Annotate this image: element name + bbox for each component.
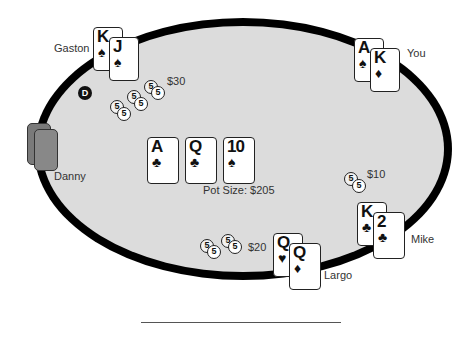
divider-line: [141, 322, 341, 323]
chip-icon: 5: [134, 97, 148, 111]
diamond-icon: ♦: [294, 261, 301, 275]
chip-icon: 5: [151, 86, 165, 100]
gaston-bet-amount: $30: [167, 75, 185, 87]
club-icon: ♣: [378, 230, 387, 244]
player-name-you: You: [407, 47, 426, 59]
club-icon: ♣: [190, 155, 199, 169]
largo-card-2: Q ♦: [289, 243, 321, 290]
board-card-2: Q ♣: [185, 137, 217, 184]
player-name-mike: Mike: [411, 233, 434, 245]
mike-card-2: 2 ♣: [373, 212, 405, 259]
player-name-gaston: Gaston: [54, 42, 89, 54]
spade-icon: ♠: [98, 45, 105, 59]
player-name-largo: Largo: [324, 269, 352, 281]
chip-icon: 5: [117, 107, 131, 121]
pot-size-label: Pot Size: $205: [203, 184, 275, 196]
spade-icon: ♠: [114, 55, 121, 69]
player-name-danny: Danny: [54, 170, 86, 182]
diamond-icon: ♦: [375, 66, 382, 80]
chip-icon: 5: [207, 245, 221, 259]
board-card-1: A ♣: [147, 137, 179, 184]
board-card-3: 10 ♠: [223, 137, 255, 184]
gaston-card-2: J ♠: [109, 37, 139, 81]
heart-icon: ♥: [278, 251, 286, 265]
chip-icon: 5: [228, 240, 242, 254]
mike-bet-amount: $10: [367, 168, 385, 180]
chip-icon: 5: [352, 179, 366, 193]
largo-bet-amount: $20: [248, 241, 266, 253]
your-card-2: K ♦: [370, 48, 400, 92]
spade-icon: ♠: [359, 56, 366, 70]
danny-card-back-2: [34, 129, 58, 171]
dealer-button: D: [78, 86, 92, 100]
club-icon: ♣: [362, 220, 371, 234]
club-icon: ♣: [152, 155, 161, 169]
spade-icon: ♠: [228, 155, 235, 169]
